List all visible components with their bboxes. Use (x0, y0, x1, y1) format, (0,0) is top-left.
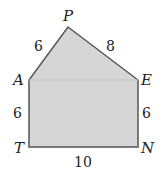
vertex-label-a: A (11, 71, 24, 89)
pentagon-diagram: P A E T N 6 8 6 6 10 (0, 0, 163, 174)
side-label-pe: 8 (106, 38, 115, 54)
vertex-label-t: T (14, 139, 25, 157)
vertex-label-n: N (140, 139, 155, 157)
vertex-label-e: E (140, 71, 152, 89)
side-label-pa: 6 (34, 38, 43, 54)
side-label-tn: 10 (74, 154, 92, 170)
pentagon-shape (29, 27, 138, 147)
vertex-label-p: P (62, 7, 74, 25)
side-label-en: 6 (142, 105, 151, 121)
side-label-at: 6 (13, 105, 22, 121)
